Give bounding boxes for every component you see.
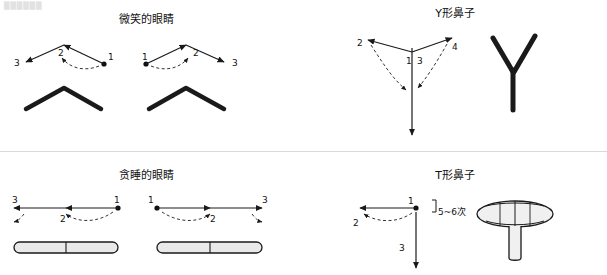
- y-nose-strokes: [368, 36, 535, 135]
- sleepy-eyes-strokes: [14, 205, 262, 253]
- t-nose-strokes: [360, 200, 553, 268]
- diagram-canvas: ██████ 微笑的眼睛 Y形鼻子 贪睡的眼睛 T形鼻子 1 2 3 1 2 3…: [0, 0, 607, 275]
- stroke-diagram-svg: [0, 0, 607, 275]
- smiling-eyes-strokes: [26, 45, 224, 109]
